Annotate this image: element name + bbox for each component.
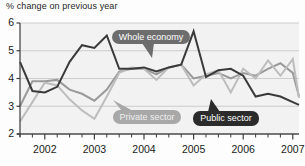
callout-label-whole-economy: Whole economy (119, 32, 184, 42)
x-tick-label-2006: 2006 (232, 143, 256, 155)
x-tick-label-2002: 2002 (33, 143, 57, 155)
x-tick-label-2003: 2003 (83, 143, 107, 155)
y-tick-label-3: 3 (8, 100, 14, 112)
chart-container: % change on previous year 23456200220032… (0, 0, 305, 166)
y-tick-label-6: 6 (8, 16, 14, 28)
x-tick-label-2005: 2005 (182, 143, 206, 155)
y-tick-label-2: 2 (8, 127, 14, 139)
y-tick-label-5: 5 (8, 44, 14, 56)
callout-label-private-sector: Private sector (119, 112, 174, 122)
x-tick-label-2004: 2004 (132, 143, 156, 155)
x-tick-label-2007: 2007 (281, 143, 305, 155)
callout-label-public-sector: Public sector (200, 113, 252, 123)
line-chart-plot: 23456200220032004200520062007 Whole econ… (0, 0, 305, 166)
y-tick-label-4: 4 (8, 72, 14, 84)
